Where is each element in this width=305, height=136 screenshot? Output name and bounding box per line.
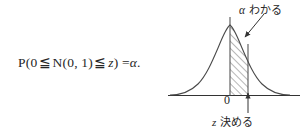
statistics-figure: P(0≦N(0, 1)≦z) =α.: [0, 0, 305, 136]
shaded-probability-region: [230, 18, 248, 96]
probability-formula: P(0≦N(0, 1)≦z) =α.: [18, 56, 141, 70]
z-symbol: z: [212, 116, 216, 128]
formula-relation-2: ≦: [93, 55, 108, 70]
alpha-annotation-label: α わかる: [239, 1, 282, 17]
formula-period: .: [137, 55, 141, 70]
z-annotation-label: z 決める: [212, 113, 253, 129]
formula-relation-1: ≦: [37, 55, 52, 70]
alpha-annotation-text: わかる: [249, 4, 282, 17]
formula-normal: N(0, 1): [53, 55, 93, 70]
formula-close: ) =: [114, 55, 130, 70]
formula-p-open: P(0: [18, 55, 37, 70]
origin-tick-label: 0: [224, 93, 230, 108]
alpha-symbol: α: [239, 4, 245, 16]
formula-alpha: α: [130, 55, 137, 70]
z-annotation-text: 決める: [220, 116, 253, 129]
alpha-leader-arrow: [245, 14, 264, 37]
